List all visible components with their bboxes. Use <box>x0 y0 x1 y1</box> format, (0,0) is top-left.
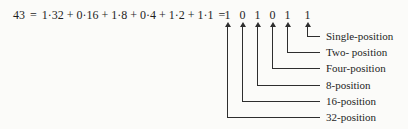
leader-line-vertical <box>257 27 258 86</box>
equation: 43 = 1·32 + 0·16 + 1·8 + 0·4 + 1·2 + 1·1… <box>13 9 225 22</box>
equals-sign: = <box>30 9 37 22</box>
position-label: Two- position <box>326 46 387 58</box>
position-label: Four-position <box>326 62 386 74</box>
leader-line-horizontal <box>272 68 320 69</box>
leader-line-vertical <box>287 27 288 53</box>
leader-line-horizontal <box>287 52 320 53</box>
expansion-terms: 1·32 + 0·16 + 1·8 + 0·4 + 1·2 + 1·1 <box>42 9 214 22</box>
binary-digit: 1 <box>305 9 311 22</box>
leader-line-horizontal <box>307 36 320 37</box>
binary-digit: 1 <box>285 9 291 22</box>
leader-line-vertical <box>242 27 243 102</box>
decimal-value: 43 <box>13 9 25 22</box>
position-label: 8-position <box>326 79 371 91</box>
position-label: 16-position <box>326 95 376 107</box>
binary-digit: 1 <box>225 9 231 22</box>
leader-line-horizontal <box>227 117 320 118</box>
leader-line-horizontal <box>242 101 320 102</box>
binary-digit: 0 <box>270 9 276 22</box>
position-label: 32-position <box>326 111 376 123</box>
binary-digit: 1 <box>255 9 261 22</box>
position-label: Single-position <box>326 30 393 42</box>
leader-line-horizontal <box>257 85 320 86</box>
binary-expansion-figure: 43 = 1·32 + 0·16 + 1·8 + 0·4 + 1·2 + 1·1… <box>0 0 408 129</box>
leader-line-vertical <box>227 27 228 118</box>
binary-digit: 0 <box>240 9 246 22</box>
leader-line-vertical <box>272 27 273 69</box>
